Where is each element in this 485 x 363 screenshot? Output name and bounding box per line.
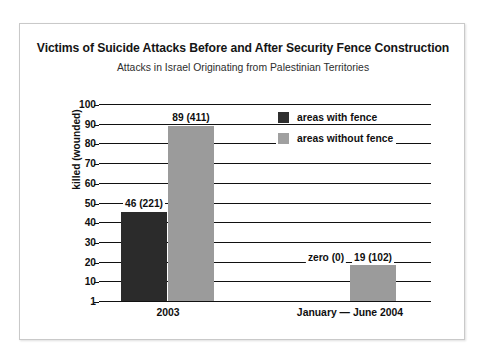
y-axis-title: killed (wounded) (71, 90, 82, 210)
y-tick-label: 1 (62, 296, 96, 307)
x-tick-label-2004: January — June 2004 (297, 307, 403, 318)
bar-2004-without-fence[interactable] (350, 265, 396, 301)
y-tick-label: 30 (62, 236, 96, 247)
legend-label: areas without fence (297, 133, 393, 144)
bar-value-label-2003-without-fence: 89 (411) (170, 112, 211, 123)
bar-value-label-2004-without-fence: 19 (102) (352, 252, 394, 263)
chart-title: Victims of Suicide Attacks Before and Af… (20, 41, 466, 55)
bar-value-label-2004-with-fence: zero (0) (306, 252, 346, 263)
legend-swatch-icon (278, 112, 289, 123)
bar-value-label-2003-with-fence: 46 (221) (123, 198, 165, 209)
y-tick-label: 10 (62, 276, 96, 287)
chart-subtitle: Attacks in Israel Originating from Pales… (20, 62, 466, 73)
legend-item-without-fence[interactable]: areas without fence (276, 129, 396, 147)
y-tick-label: 40 (62, 217, 96, 228)
y-tick-label: 20 (62, 256, 96, 267)
legend-item-with-fence[interactable]: areas with fence (276, 108, 396, 126)
legend-label: areas with fence (297, 112, 377, 123)
gridline (99, 163, 431, 164)
bar-2003-with-fence[interactable] (121, 212, 167, 302)
chart-legend: areas with fence areas without fence (276, 108, 396, 150)
x-tick-label-2003: 2003 (156, 307, 179, 318)
bar-2003-without-fence[interactable] (168, 126, 214, 301)
x-axis-tick-labels: 2003 January — June 2004 (99, 307, 431, 327)
gridline (99, 104, 431, 105)
legend-swatch-icon (278, 133, 289, 144)
chart-card: Victims of Suicide Attacks Before and Af… (19, 23, 465, 340)
gridline (99, 183, 431, 184)
axis-baseline (99, 301, 431, 302)
